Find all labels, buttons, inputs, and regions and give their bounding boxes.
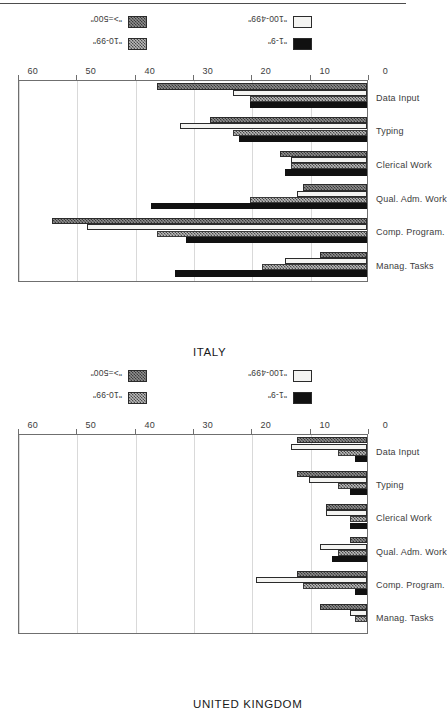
legend-swatch [293,370,312,382]
category-label: Qual. Adm. Work [376,547,447,557]
bar [350,610,368,616]
gridline [136,81,137,281]
bar [291,157,367,163]
axis-tick-label: 20 [251,66,271,76]
bar [175,270,368,276]
bar [350,523,368,529]
axis-tick-label: 50 [76,66,96,76]
category-label: Typing [376,127,404,137]
bar [297,571,367,577]
category-label: Clerical Work [376,513,432,523]
legend-swatch [293,38,312,50]
gridline [311,81,312,281]
legend: "1-9""10-99""100-499"">=500" [18,360,368,404]
axis-tick-label: 30 [193,66,213,76]
bar [52,218,367,224]
gridline [194,81,195,281]
gridline [19,435,20,633]
plot-area [18,80,368,282]
chart-stage-united-kingdom: 0102030405060Manag. TasksComp. Program.Q… [0,360,406,708]
category-label: Clerical Work [376,160,432,170]
bar [320,252,367,258]
legend-swatch [128,392,147,404]
axis-tick-label: 50 [76,420,96,430]
bar [285,258,367,264]
gridline [77,81,78,281]
chart-panel-italy: 0102030405060Manag. TasksComp. Program.Q… [0,6,406,356]
bar [338,550,367,556]
bar [355,456,367,462]
chart-united-kingdom: 0102030405060Manag. TasksComp. Program.Q… [0,360,406,708]
chart-italy: 0102030405060Manag. TasksComp. Program.Q… [0,6,406,356]
legend-label: "10-99" [93,390,122,400]
top-rule [0,3,406,4]
bar [157,231,367,237]
legend: "1-9""10-99""100-499"">=500" [18,6,368,50]
legend-label: "10-99" [93,36,122,46]
bar [291,444,367,450]
legend-swatch [293,16,312,28]
chart-panel-united-kingdom: 0102030405060Manag. TasksComp. Program.Q… [0,360,406,708]
bar [297,471,367,477]
bar [303,184,367,190]
axis-tick-label: 60 [18,66,38,76]
category-label: Typing [376,480,404,490]
legend-swatch [128,16,147,28]
bar [250,102,367,108]
legend-label: ">=500" [91,14,123,24]
bar [338,450,367,456]
legend-swatch [128,38,147,50]
chart-stage-italy: 0102030405060Manag. TasksComp. Program.Q… [0,6,406,356]
axis-tick-label: 10 [310,420,330,430]
bar [309,477,367,483]
legend-label: "1-9" [267,36,286,46]
category-label: Manag. Tasks [376,613,434,623]
legend-label: ">=500" [91,368,123,378]
bar [297,437,367,443]
bar [320,544,367,550]
bar [280,151,368,157]
panel-title: ITALY [193,346,226,358]
bar [250,197,367,203]
legend-label: "100-499" [248,368,287,378]
bar [355,589,367,595]
category-label: Qual. Adm. Work [376,194,447,204]
gridline [136,435,137,633]
axis-tick-label: 40 [135,420,155,430]
category-label: Data Input [376,447,420,457]
bar [326,510,367,516]
legend-swatch [293,392,312,404]
bar [157,83,367,89]
bar [338,483,367,489]
category-label: Comp. Program. [376,580,445,590]
axis-tick-label: 20 [251,420,271,430]
bar [332,556,367,562]
gridline [77,435,78,633]
category-label: Comp. Program. [376,228,445,238]
bar [256,577,367,583]
legend-label: "100-499" [248,14,287,24]
bar [151,203,367,209]
bar [233,90,367,96]
axis-tick-label: 0 [368,66,388,76]
gridline [194,435,195,633]
bar [262,264,367,270]
bar [186,237,367,243]
bar [239,136,367,142]
category-label: Data Input [376,93,420,103]
axis-tick-label: 40 [135,66,155,76]
panel-title: UNITED KINGDOM [193,698,302,710]
gridline [19,81,20,281]
bar [350,516,368,522]
bar [250,96,367,102]
bar [291,163,367,169]
legend-label: "1-9" [267,390,286,400]
legend-swatch [128,370,147,382]
bar [285,169,367,175]
bar [297,191,367,197]
axis-tick-label: 60 [18,420,38,430]
bar [210,117,368,123]
bar [87,224,367,230]
plot-area [18,434,368,634]
bar [320,604,367,610]
